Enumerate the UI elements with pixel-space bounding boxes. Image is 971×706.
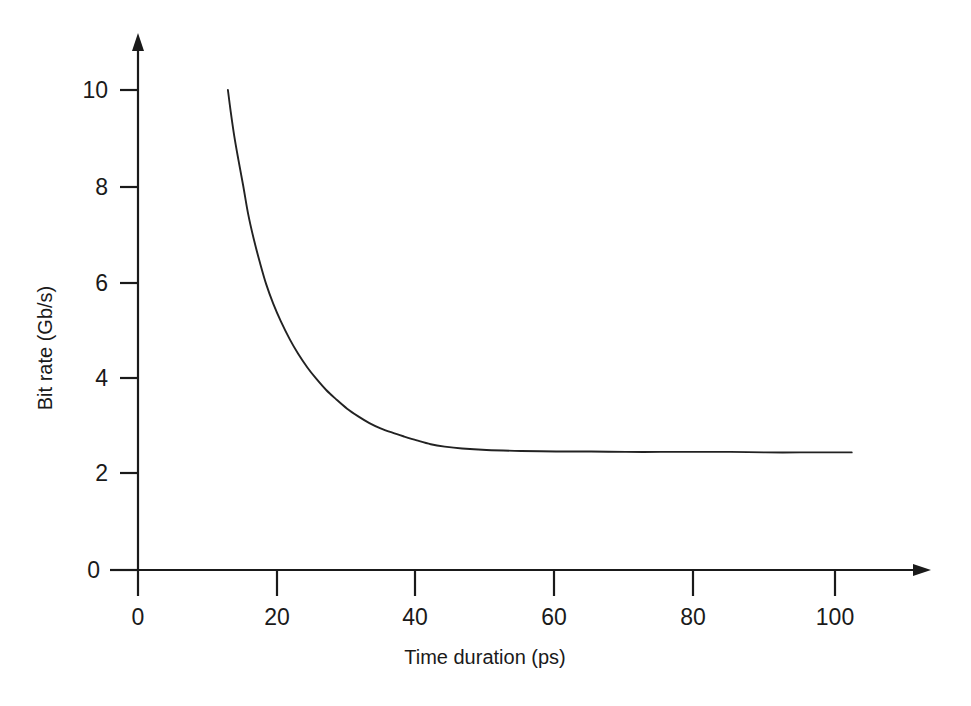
y-axis-arrow-icon xyxy=(132,33,144,51)
y-tick-label-0: 0 xyxy=(87,557,100,583)
chart-figure: 10 8 6 4 2 0 0 20 40 60 80 100 xyxy=(0,0,971,706)
y-tick-label-2: 2 xyxy=(95,460,108,486)
x-axis-tick-labels: 0 20 40 60 80 100 xyxy=(132,604,855,630)
y-tick-label-4: 4 xyxy=(95,365,108,391)
x-axis-arrow-icon xyxy=(913,564,931,576)
x-tick-label-0: 0 xyxy=(132,604,145,630)
x-axis-ticks xyxy=(138,570,835,596)
series-group xyxy=(228,90,852,452)
x-tick-label-60: 60 xyxy=(541,604,567,630)
x-tick-label-80: 80 xyxy=(680,604,706,630)
x-tick-label-20: 20 xyxy=(264,604,290,630)
y-tick-label-10: 10 xyxy=(82,77,108,103)
x-tick-label-100: 100 xyxy=(816,604,854,630)
y-axis-tick-labels: 10 8 6 4 2 0 xyxy=(82,77,108,583)
y-axis-ticks xyxy=(110,90,138,570)
x-axis-title: Time duration (ps) xyxy=(404,646,566,668)
y-tick-label-8: 8 xyxy=(95,174,108,200)
series-line-bit-rate xyxy=(228,90,852,452)
x-tick-label-40: 40 xyxy=(402,604,428,630)
y-tick-label-6: 6 xyxy=(95,270,108,296)
y-axis-title: Bit rate (Gb/s) xyxy=(34,286,56,410)
chart-canvas: 10 8 6 4 2 0 0 20 40 60 80 100 xyxy=(0,0,971,706)
